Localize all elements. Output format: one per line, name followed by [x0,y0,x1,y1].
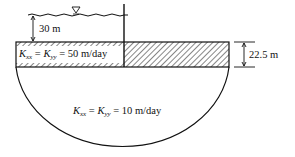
equals-sign: = [35,48,41,59]
k-subscript-x: xx [26,53,32,61]
water-level-marker-icon [72,7,80,13]
upper-layer-right-hatch [124,42,229,67]
equals-sign: = [89,105,95,116]
layer-thickness-label: 22.5 m [249,50,278,61]
lower-layer-conductivity-label: Kxx = Kyy = 10 m/day [73,106,161,118]
equals-sign: = [59,48,65,59]
depth-label: 30 m [39,24,60,35]
conductivity-value: 50 m/day [68,48,107,59]
k-symbol: K [19,48,26,59]
k-subscript-y: yy [50,53,56,61]
conductivity-value: 10 m/day [122,105,161,116]
upper-layer-conductivity-label: Kxx = Kyy = 50 m/day [19,49,107,61]
k-symbol: K [73,105,80,116]
k-subscript-y: yy [104,110,110,118]
k-subscript-x: xx [80,110,86,118]
equals-sign: = [113,105,119,116]
